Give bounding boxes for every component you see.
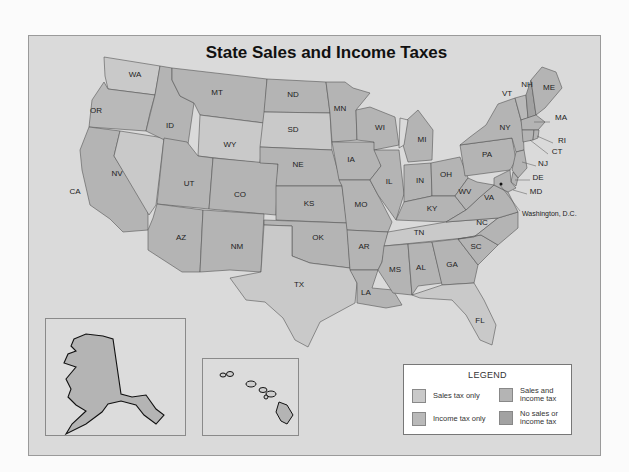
state-label-nh: NH [521,80,533,89]
state-co [209,158,278,215]
legend-label: Sales and income tax [520,387,556,403]
state-label-tn: TN [414,228,425,237]
state-label-nm: NM [231,242,244,251]
swatch-no-tax [499,411,513,425]
state-ia [332,142,381,180]
legend-item-no-tax: No sales or income tax [499,410,558,426]
map-title: State Sales and Income Taxes [0,43,629,63]
state-label-pa: PA [482,150,493,159]
state-label-nc: NC [476,218,488,227]
state-label-md: MD [530,187,543,196]
state-label-vt: VT [502,89,512,98]
legend-title: LEGEND [404,370,571,380]
state-label-wa: WA [129,70,142,79]
dc-marker [500,183,503,186]
state-label-la: LA [361,288,371,297]
state-label-ky: KY [427,204,438,213]
state-label-wv: WV [459,187,473,196]
dc-label: Washington, D.C. [522,210,577,218]
alaska-shape [46,319,187,437]
state-label-va: VA [484,193,495,202]
legend-label: Sales tax only [433,392,480,400]
alaska-inset [45,318,186,436]
state-label-mt: MT [211,88,223,97]
state-label-il: IL [386,177,393,186]
state-ct [522,130,534,142]
state-ri [533,130,539,140]
state-label-or: OR [90,106,102,115]
state-label-ca: CA [69,187,81,196]
legend: LEGEND Sales tax only Sales and income t… [403,364,572,435]
state-label-sc: SC [470,242,481,251]
state-label-de: DE [532,173,543,182]
state-label-ri: RI [558,136,566,145]
state-nm [200,210,264,272]
contiguous-us [80,57,562,347]
state-label-mo: MO [355,200,368,209]
state-label-ny: NY [499,123,511,132]
state-wy [198,115,264,163]
state-label-fl: FL [475,316,485,325]
swatch-sales-only [412,389,426,403]
hawaii-islands [203,359,300,437]
legend-item-sales-and-income: Sales and income tax [499,387,556,403]
swatch-income-only [412,412,426,426]
state-label-ks: KS [304,199,315,208]
state-label-ut: UT [184,179,195,188]
state-label-oh: OH [440,170,452,179]
swatch-sales-and-income [499,388,513,402]
state-label-sd: SD [287,125,298,134]
state-label-ga: GA [446,260,458,269]
state-label-az: AZ [176,233,186,242]
legend-label: Income tax only [433,415,486,423]
legend-item-income-only: Income tax only [412,412,486,426]
state-label-co: CO [234,190,246,199]
legend-label: No sales or income tax [520,410,558,426]
state-fl [412,283,496,345]
hawaii-inset [202,358,299,436]
state-label-ok: OK [312,233,324,242]
state-label-ia: IA [347,155,355,164]
state-label-al: AL [416,263,426,272]
state-label-nj: NJ [538,159,548,168]
state-label-wi: WI [375,123,385,132]
state-label-mn: MN [334,104,347,113]
state-label-me: ME [543,83,555,92]
state-label-ne: NE [292,160,303,169]
state-label-ar: AR [358,242,369,251]
state-label-mi: MI [418,135,427,144]
state-label-ms: MS [389,265,401,274]
state-label-nv: NV [111,169,123,178]
state-label-in: IN [416,176,424,185]
state-label-nd: ND [287,90,299,99]
state-label-wy: WY [224,140,238,149]
legend-item-sales-only: Sales tax only [412,389,480,403]
state-label-id: ID [166,121,174,130]
state-label-tx: TX [294,280,305,289]
state-label-ma: MA [555,113,568,122]
state-label-ct: CT [552,147,563,156]
